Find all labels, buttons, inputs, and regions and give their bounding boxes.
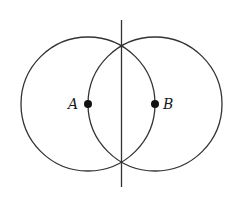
- label-b: B: [162, 96, 173, 112]
- point-a: [84, 100, 92, 108]
- bisector-diagram: A B: [0, 0, 233, 201]
- point-b: [151, 100, 159, 108]
- label-a: A: [66, 96, 78, 112]
